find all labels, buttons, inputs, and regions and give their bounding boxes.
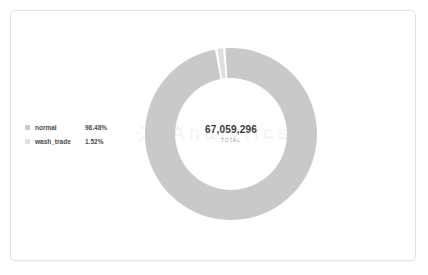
donut-slice-normal[interactable] <box>145 48 317 220</box>
donut-slices[interactable] <box>145 48 317 220</box>
legend-item-normal[interactable]: normal 98.48% <box>25 121 143 133</box>
legend-item-label: wash_trade <box>35 138 85 145</box>
legend-item-value: 98.48% <box>85 124 107 131</box>
legend-swatch-icon <box>25 125 30 130</box>
legend-item-wash-trade[interactable]: wash_trade 1.52% <box>25 135 143 147</box>
legend-item-label: normal <box>35 124 85 131</box>
donut-chart <box>141 14 321 254</box>
chart-card: Analytics normal 98.48% wash_trade 1.52%… <box>10 10 416 261</box>
donut-chart-svg <box>141 14 321 254</box>
legend-item-value: 1.52% <box>85 138 103 145</box>
legend-swatch-icon <box>25 139 30 144</box>
chart-legend: normal 98.48% wash_trade 1.52% <box>25 121 143 149</box>
